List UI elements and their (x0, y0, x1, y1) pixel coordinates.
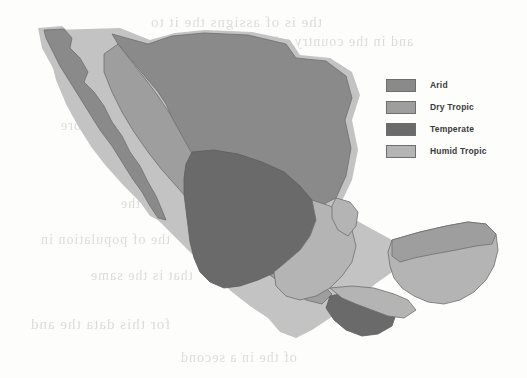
legend-label-arid: Arid (430, 80, 448, 90)
legend-swatch-temperate (386, 123, 416, 136)
legend-item-arid: Arid (386, 74, 521, 96)
legend-item-temperate: Temperate (386, 118, 521, 140)
legend-label-humid-tropic: Humid Tropic (430, 146, 487, 156)
legend-label-dry-tropic: Dry Tropic (430, 102, 474, 112)
mexico-climate-map (0, 0, 527, 378)
legend-swatch-humid-tropic (386, 145, 416, 158)
legend-item-dry-tropic: Dry Tropic (386, 96, 521, 118)
map-legend: Arid Dry Tropic Temperate Humid Tropic (386, 74, 521, 162)
scanned-figure-page: the is of assigns the it toand in the co… (0, 0, 527, 378)
legend-swatch-arid (386, 79, 416, 92)
legend-item-humid-tropic: Humid Tropic (386, 140, 521, 162)
legend-label-temperate: Temperate (430, 124, 474, 134)
legend-swatch-dry-tropic (386, 101, 416, 114)
map-svg (0, 0, 527, 378)
